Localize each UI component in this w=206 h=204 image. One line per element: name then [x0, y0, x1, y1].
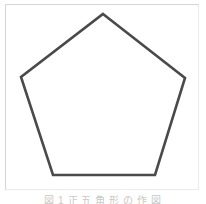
figure-caption: 図 1 正 五 角 形 の 作 図: [0, 195, 206, 204]
pentagon-shape: [0, 0, 206, 204]
figure-canvas: 図 1 正 五 角 形 の 作 図: [0, 0, 206, 204]
pentagon-outline: [21, 14, 185, 175]
